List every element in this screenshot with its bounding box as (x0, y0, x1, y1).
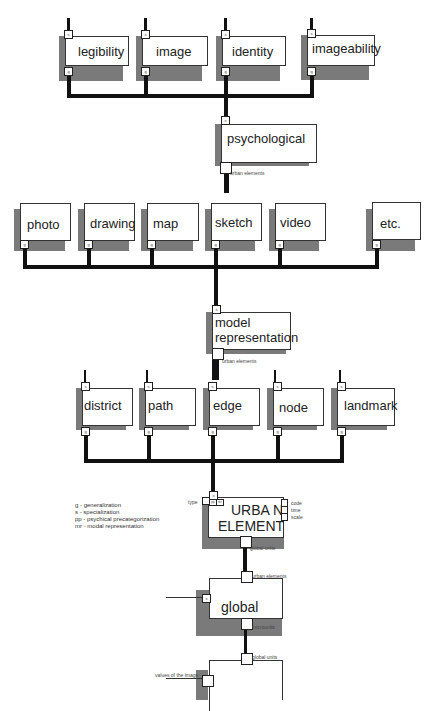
legend-item-pp: pp - psychical precategorization (75, 516, 159, 523)
label-drawing: drawing (90, 216, 136, 231)
port-g: g (221, 67, 230, 76)
caption-scale: scale (291, 514, 303, 520)
label-urban: URBA N (231, 503, 283, 518)
port-s: s (212, 305, 221, 314)
label-image: image (156, 44, 191, 59)
label-node: node (279, 400, 308, 415)
port-g: g (141, 67, 150, 76)
port-s: s (144, 382, 153, 391)
port-s: s (64, 30, 73, 39)
caption-urban-elements: urban elements (222, 358, 256, 364)
label-representation: representation (215, 330, 298, 345)
caption-urban-elements: urban elements (252, 573, 286, 579)
label-etc: etc. (380, 216, 401, 231)
legend-item-mr: mr - modal representation (75, 523, 144, 530)
label-element: ELEMENT (218, 519, 284, 534)
label-identity: identity (232, 44, 273, 59)
legend-item-s: s - specialization (75, 509, 119, 516)
port-s: s (208, 382, 217, 391)
port-s: s (337, 382, 346, 391)
caption-code: code (291, 500, 302, 506)
port-s: s (202, 594, 211, 603)
label-psychological: psychological (227, 131, 305, 146)
port-s: s (307, 29, 316, 38)
port-s: s (273, 382, 282, 391)
caption-time: time (291, 507, 300, 513)
port-values-of-the-image (202, 675, 214, 687)
port-scale (281, 513, 288, 521)
label-landmark: landmark (344, 398, 397, 413)
port-g: g (64, 67, 73, 76)
legend-item-g: g - generalization (75, 502, 121, 509)
label-edge: edge (213, 398, 242, 413)
label-model: model (215, 315, 250, 330)
label-sketch: sketch (215, 215, 253, 230)
caption-global-units: global units (250, 545, 275, 551)
label-path: path (148, 398, 173, 413)
label-photo: photo (27, 217, 60, 232)
label-map: map (153, 216, 178, 231)
port-s: s (221, 30, 230, 39)
caption-type: type (188, 499, 197, 505)
port-g: g (307, 67, 316, 76)
label-legibility: legibility (78, 44, 124, 59)
label-imageability: imageability (312, 41, 381, 56)
port-s: s (81, 382, 90, 391)
port-s: s (221, 116, 230, 125)
port-mr: mr (216, 499, 224, 506)
caption-microunits: microunits (252, 624, 275, 630)
caption-urban-elements: urban elements (230, 170, 264, 176)
caption-global-units: global units (252, 654, 277, 660)
label-global: global (221, 600, 258, 615)
label-district: district (84, 398, 122, 413)
port-s: s (141, 30, 150, 39)
caption-values-of-the-image: values of the image (155, 672, 198, 678)
label-video: video (280, 215, 311, 230)
